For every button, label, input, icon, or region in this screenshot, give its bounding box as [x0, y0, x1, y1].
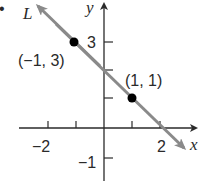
coordinate-plane: • L y x −2 2 3 −1 (−1, 3) (1, 1): [0, 0, 199, 181]
y-axis-label: y: [84, 0, 94, 17]
y-ticks: [104, 42, 113, 158]
x-tick-label-neg2: −2: [32, 138, 50, 155]
point-label-neg1-3: (−1, 3): [18, 52, 65, 69]
point-neg1-3: [70, 38, 79, 47]
y-tick-label-neg1: −1: [78, 154, 96, 171]
x-axis-label: x: [189, 135, 198, 154]
point-label-1-1: (1, 1): [125, 72, 162, 89]
bullet-marker: •: [0, 0, 5, 17]
x-tick-label-2: 2: [157, 138, 166, 155]
point-1-1: [128, 94, 137, 103]
line-label: L: [22, 4, 32, 23]
y-tick-label-3: 3: [87, 34, 96, 51]
